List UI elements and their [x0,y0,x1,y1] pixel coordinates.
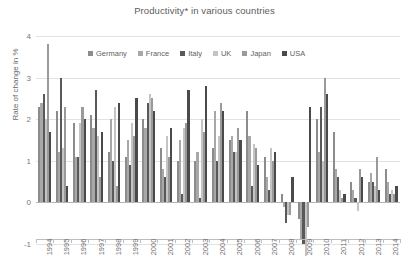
bar-group [209,36,226,244]
y-tick-label: 3 [27,73,31,82]
x-tick-label: 2008 [287,239,296,256]
bar-usa-2009 [309,107,311,203]
x-tick-label: 1999 [131,239,140,256]
bar-group [88,36,105,244]
legend-item-germany[interactable]: Germany [88,49,127,58]
legend-item-uk[interactable]: UK [213,49,231,58]
x-label-cell: 2002 [175,245,192,279]
bar-group [192,36,209,244]
x-label-cell: 2000 [140,245,157,279]
x-tick-mark [348,239,349,243]
x-tick-mark [244,239,245,243]
y-tick-label: 1 [27,156,31,165]
x-tick-label: 1994 [45,239,54,256]
x-tick-label: 2012 [357,239,366,256]
x-tick-label: 2000 [149,239,158,256]
chart-title: Productivity* in various countries [0,5,409,16]
bar-group [175,36,192,244]
chart-container: Productivity* in various countries Rate … [0,0,409,280]
y-axis-label: Rate of change in % [11,40,20,130]
bar-group [313,36,330,244]
x-tick-label: 1997 [97,239,106,256]
bar-usa-2003 [205,86,207,202]
bar-group [365,36,382,244]
bar-group [53,36,70,244]
x-tick-label: 2011 [339,239,348,255]
bar-groups [36,36,400,244]
x-tick-label: 2002 [183,239,192,256]
legend-label: France [146,49,169,58]
bar-usa-2000 [153,111,155,203]
bar-usa-2014 [395,186,397,203]
x-label-cell: 2004 [209,245,226,279]
y-tick-label: -1 [24,240,31,249]
x-tick-label: 1995 [62,239,71,256]
bar-france-2002 [179,140,181,202]
legend-item-france[interactable]: France [138,49,169,58]
x-tick-mark [192,239,193,243]
x-label-cell: 2007 [261,245,278,279]
legend-label: Italy [188,49,202,58]
bar-group [36,36,53,244]
legend-swatch-icon [242,51,247,56]
x-label-cell: 1997 [88,245,105,279]
bar-usa-2013 [378,190,380,202]
bar-usa-1994 [49,132,51,203]
x-tick-label: 2014 [391,239,400,256]
bar-uk-2012 [357,202,359,210]
x-label-cell: 2014 [383,245,400,279]
bar-usa-2005 [239,140,241,202]
bar-usa-1997 [101,132,103,203]
x-label-cell: 1995 [53,245,70,279]
legend-item-italy[interactable]: Italy [180,49,202,58]
bar-usa-1995 [66,186,68,203]
y-tick-label: 0 [27,198,31,207]
x-label-cell: 1996 [71,245,88,279]
x-tick-label: 2013 [374,239,383,256]
x-tick-label: 2009 [305,239,314,256]
x-label-cell: 1999 [123,245,140,279]
bar-usa-2010 [326,94,328,202]
x-tick-label: 2010 [322,239,331,256]
bar-usa-2001 [170,128,172,203]
x-tick-label: 2001 [166,239,175,256]
bar-usa-2012 [361,177,363,202]
x-tick-mark [140,239,141,243]
bar-group [348,36,365,244]
x-tick-label: 2004 [218,239,227,256]
bar-group [279,36,296,244]
y-tick-label: 2 [27,115,31,124]
bar-usa-2002 [187,90,189,202]
x-tick-label: 1998 [114,239,123,256]
x-label-cell: 2008 [279,245,296,279]
bar-usa-2006 [257,165,259,202]
x-label-cell: 2011 [331,245,348,279]
bar-usa-2011 [343,194,345,202]
legend-swatch-icon [138,51,143,56]
legend-label: UK [221,49,231,58]
bar-group [157,36,174,244]
x-label-cell: 1998 [105,245,122,279]
bar-group [331,36,348,244]
x-axis-labels: 1994199519961997199819992000200120022003… [36,245,400,279]
bar-japan-2008 [289,202,291,214]
x-tick-mark [88,239,89,243]
legend-item-usa[interactable]: USA [282,49,305,58]
bar-group [140,36,157,244]
x-label-cell: 2003 [192,245,209,279]
x-tick-label: 2007 [270,239,279,256]
legend-swatch-icon [180,51,185,56]
x-label-cell: 2005 [227,245,244,279]
x-label-cell: 2013 [365,245,382,279]
x-tick-label: 2005 [235,239,244,256]
x-tick-mark [296,239,297,243]
x-tick-mark [36,239,37,243]
bar-usa-2007 [274,152,276,202]
bar-group [123,36,140,244]
bar-usa-2004 [222,111,224,203]
y-tick-label: 4 [27,32,31,41]
bar-group [244,36,261,244]
bar-usa-1996 [84,119,86,202]
legend-item-japan[interactable]: Japan [242,49,270,58]
x-label-cell: 2010 [313,245,330,279]
